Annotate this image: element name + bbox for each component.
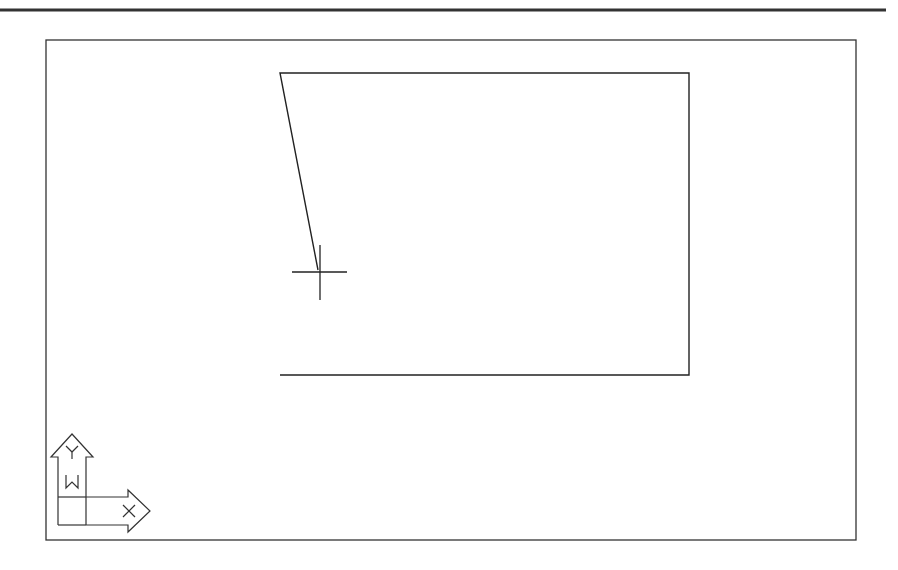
drawn-polyline[interactable] <box>280 73 689 375</box>
y-axis-label <box>66 446 78 459</box>
crosshair-cursor-icon <box>292 245 347 300</box>
viewport-frame <box>46 40 856 540</box>
ucs-icon <box>51 434 150 532</box>
x-axis-label <box>123 505 135 517</box>
w-label <box>66 475 78 488</box>
drawing-canvas[interactable]: Y X W <box>0 0 898 570</box>
